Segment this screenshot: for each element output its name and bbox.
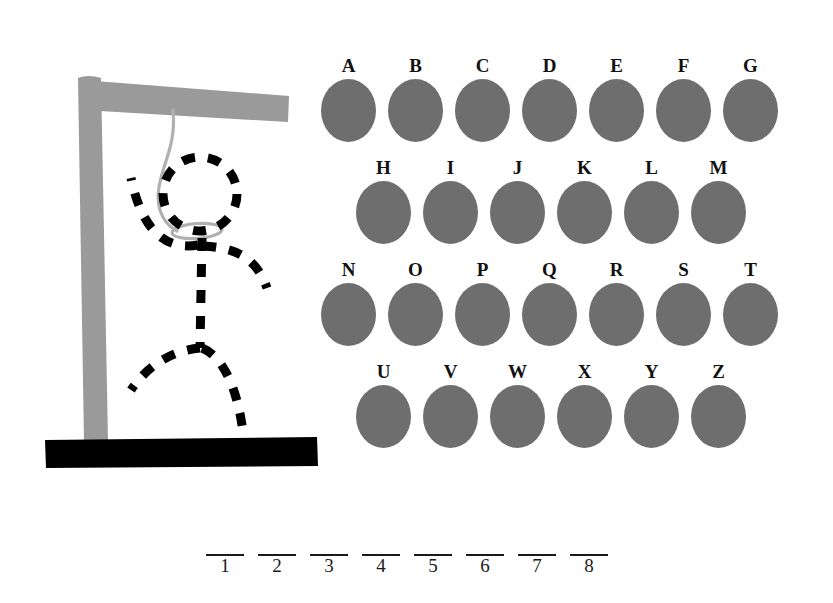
letter-key-y[interactable]: Y [623,362,680,458]
letter-key-disc[interactable] [557,181,612,244]
letter-key-label: V [444,362,458,382]
letter-key-disc[interactable] [656,79,711,142]
letter-key-k[interactable]: K [556,158,613,254]
figure-left-leg-icon [131,348,200,390]
letter-key-disc[interactable] [522,283,577,346]
answer-blanks: 1 2 3 4 5 6 7 [206,534,608,576]
letter-key-disc[interactable] [490,181,545,244]
figure-right-leg-icon [202,348,243,432]
letter-key-disc[interactable] [589,79,644,142]
blank-slot: 4 [362,534,400,576]
blank-index: 8 [584,555,594,576]
hangman-game: A B C D E F G [0,0,833,603]
letter-key-l[interactable]: L [623,158,680,254]
letter-key-disc[interactable] [356,181,411,244]
letter-key-i[interactable]: I [422,158,479,254]
letter-key-disc[interactable] [423,181,478,244]
letter-key-h[interactable]: H [355,158,412,254]
blank-slot: 7 [518,534,556,576]
blank-slot: 3 [310,534,348,576]
letter-key-n[interactable]: N [320,260,377,356]
letter-key-disc[interactable] [723,283,778,346]
letter-key-disc[interactable] [388,283,443,346]
letter-key-label: X [578,362,592,382]
letter-key-q[interactable]: Q [521,260,578,356]
letter-key-disc[interactable] [455,283,510,346]
letter-key-label: R [610,260,624,280]
letter-key-c[interactable]: C [454,56,511,152]
blank-index: 5 [428,555,438,576]
letter-key-disc[interactable] [522,79,577,142]
letter-key-label: K [577,158,592,178]
letter-key-label: Y [645,362,659,382]
blank-slot: 2 [258,534,296,576]
letter-key-m[interactable]: M [690,158,747,254]
letter-key-z[interactable]: Z [690,362,747,458]
letter-key-disc[interactable] [691,181,746,244]
letter-key-label: Z [712,362,725,382]
blank-index: 4 [376,555,386,576]
figure-head-icon [163,157,237,231]
letter-key-t[interactable]: T [722,260,779,356]
gallows-drawing [0,0,320,500]
letter-key-disc[interactable] [490,385,545,448]
letter-key-disc[interactable] [691,385,746,448]
letter-key-disc[interactable] [624,385,679,448]
letter-key-w[interactable]: W [489,362,546,458]
letter-key-label: Q [542,260,557,280]
letter-key-g[interactable]: G [722,56,779,152]
letter-key-d[interactable]: D [521,56,578,152]
letter-key-e[interactable]: E [588,56,645,152]
letter-key-label: W [508,362,527,382]
letter-key-v[interactable]: V [422,362,479,458]
letter-key-label: F [678,56,690,76]
letter-row: U V W X Y Z [355,362,747,458]
letter-key-disc[interactable] [455,79,510,142]
blank-slot: 8 [570,534,608,576]
figure-right-arm-icon [203,246,267,288]
figure-left-arm-icon [131,178,198,246]
letter-key-disc[interactable] [356,385,411,448]
letter-key-j[interactable]: J [489,158,546,254]
letter-key-f[interactable]: F [655,56,712,152]
letter-key-label: B [409,56,422,76]
letter-key-disc[interactable] [388,79,443,142]
letter-key-label: D [543,56,557,76]
blank-slot: 6 [466,534,504,576]
blank-index: 2 [272,555,282,576]
letter-key-u[interactable]: U [355,362,412,458]
gallows-post-icon [78,76,108,442]
letter-key-label: S [678,260,689,280]
letter-key-label: M [710,158,728,178]
letter-key-p[interactable]: P [454,260,511,356]
letter-key-label: P [477,260,489,280]
letter-key-x[interactable]: X [556,362,613,458]
letter-key-label: H [376,158,391,178]
letter-keyboard: A B C D E F G [316,56,816,476]
blank-slot: 1 [206,534,244,576]
letter-key-label: G [743,56,758,76]
letter-key-label: N [342,260,356,280]
letter-key-label: L [645,158,658,178]
blank-index: 3 [324,555,334,576]
letter-key-r[interactable]: R [588,260,645,356]
letter-key-a[interactable]: A [320,56,377,152]
letter-key-o[interactable]: O [387,260,444,356]
letter-key-disc[interactable] [624,181,679,244]
letter-key-s[interactable]: S [655,260,712,356]
letter-key-label: T [744,260,757,280]
letter-key-label: J [513,158,523,178]
letter-key-disc[interactable] [321,283,376,346]
letter-key-disc[interactable] [589,283,644,346]
letter-key-disc[interactable] [723,79,778,142]
figure-torso-icon [200,238,202,348]
letter-key-label: U [377,362,391,382]
letter-key-disc[interactable] [321,79,376,142]
letter-key-disc[interactable] [423,385,478,448]
letter-key-label: A [342,56,356,76]
letter-key-disc[interactable] [656,283,711,346]
letter-key-disc[interactable] [557,385,612,448]
blank-index: 1 [220,555,230,576]
letter-key-label: O [408,260,423,280]
letter-key-b[interactable]: B [387,56,444,152]
